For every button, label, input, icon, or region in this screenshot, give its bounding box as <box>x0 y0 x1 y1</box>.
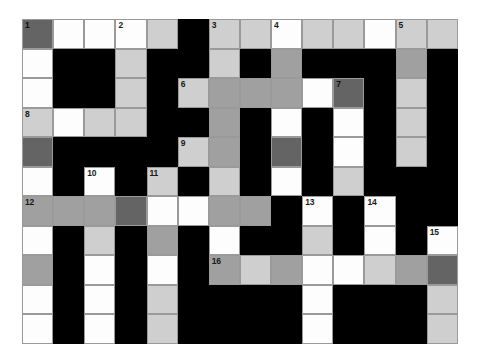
crossword-cell[interactable] <box>22 49 53 79</box>
crossword-cell[interactable] <box>396 255 427 285</box>
crossword-cell[interactable] <box>302 19 333 49</box>
crossword-cell[interactable]: 3 <box>209 19 240 49</box>
crossword-cell[interactable] <box>209 108 240 138</box>
crossword-cell[interactable] <box>240 19 271 49</box>
crossword-block-cell <box>396 314 427 344</box>
crossword-cell[interactable]: 16 <box>209 255 240 285</box>
crossword-cell[interactable] <box>240 196 271 226</box>
crossword-cell[interactable]: 15 <box>427 226 458 256</box>
crossword-cell[interactable] <box>396 137 427 167</box>
crossword-cell[interactable] <box>84 19 115 49</box>
crossword-cell[interactable] <box>178 196 209 226</box>
crossword-cell[interactable] <box>84 196 115 226</box>
crossword-cell[interactable] <box>271 78 302 108</box>
crossword-cell[interactable] <box>84 255 115 285</box>
crossword-cell[interactable] <box>333 255 364 285</box>
crossword-cell[interactable]: 11 <box>147 167 178 197</box>
crossword-cell[interactable] <box>22 255 53 285</box>
crossword-cell[interactable] <box>302 226 333 256</box>
crossword-cell[interactable] <box>364 19 395 49</box>
crossword-cell[interactable] <box>115 78 146 108</box>
cell-number: 15 <box>430 227 439 238</box>
crossword-block-cell <box>396 196 427 226</box>
crossword-cell[interactable] <box>333 19 364 49</box>
crossword-cell[interactable] <box>147 255 178 285</box>
crossword-block-cell <box>240 137 271 167</box>
crossword-cell[interactable] <box>271 167 302 197</box>
crossword-cell[interactable] <box>53 108 84 138</box>
crossword-block-cell <box>333 196 364 226</box>
crossword-cell[interactable] <box>147 285 178 315</box>
crossword-cell[interactable] <box>84 108 115 138</box>
cell-number: 2 <box>118 20 123 31</box>
crossword-cell[interactable]: 7 <box>333 78 364 108</box>
crossword-cell[interactable]: 4 <box>271 19 302 49</box>
crossword-cell[interactable]: 5 <box>396 19 427 49</box>
crossword-cell[interactable] <box>53 19 84 49</box>
crossword-cell[interactable] <box>333 108 364 138</box>
crossword-cell[interactable]: 13 <box>302 196 333 226</box>
crossword-cell[interactable]: 6 <box>178 78 209 108</box>
crossword-cell[interactable] <box>84 226 115 256</box>
crossword-block-cell <box>364 78 395 108</box>
crossword-cell[interactable] <box>147 196 178 226</box>
crossword-cell[interactable]: 10 <box>84 167 115 197</box>
crossword-cell[interactable]: 1 <box>22 19 53 49</box>
crossword-cell[interactable] <box>147 226 178 256</box>
crossword-cell[interactable] <box>271 255 302 285</box>
crossword-block-cell <box>240 226 271 256</box>
crossword-cell[interactable] <box>302 255 333 285</box>
crossword-cell[interactable] <box>22 314 53 344</box>
crossword-cell[interactable] <box>396 78 427 108</box>
crossword-cell[interactable]: 12 <box>22 196 53 226</box>
crossword-cell[interactable] <box>427 285 458 315</box>
crossword-block-cell <box>53 167 84 197</box>
crossword-grid[interactable]: 12345678910111213141516 <box>22 19 458 344</box>
crossword-cell[interactable] <box>115 49 146 79</box>
cell-number: 3 <box>212 20 217 31</box>
crossword-cell[interactable] <box>427 255 458 285</box>
crossword-cell[interactable] <box>271 108 302 138</box>
crossword-cell[interactable] <box>115 108 146 138</box>
crossword-cell[interactable] <box>22 167 53 197</box>
crossword-cell[interactable] <box>209 137 240 167</box>
crossword-cell[interactable] <box>147 19 178 49</box>
crossword-cell[interactable] <box>302 285 333 315</box>
crossword-block-cell <box>364 314 395 344</box>
crossword-cell[interactable] <box>427 314 458 344</box>
crossword-cell[interactable] <box>240 78 271 108</box>
crossword-cell[interactable] <box>396 49 427 79</box>
crossword-cell[interactable] <box>427 19 458 49</box>
crossword-cell[interactable] <box>271 137 302 167</box>
crossword-cell[interactable] <box>364 255 395 285</box>
crossword-block-cell <box>147 78 178 108</box>
crossword-cell[interactable] <box>209 196 240 226</box>
crossword-cell[interactable] <box>302 78 333 108</box>
crossword-cell[interactable] <box>84 285 115 315</box>
crossword-cell[interactable]: 2 <box>115 19 146 49</box>
crossword-cell[interactable] <box>364 226 395 256</box>
crossword-cell[interactable] <box>333 137 364 167</box>
crossword-cell[interactable] <box>271 49 302 79</box>
crossword-cell[interactable] <box>209 78 240 108</box>
crossword-cell[interactable] <box>22 78 53 108</box>
crossword-cell[interactable] <box>302 314 333 344</box>
crossword-cell[interactable] <box>22 226 53 256</box>
crossword-block-cell <box>84 137 115 167</box>
crossword-cell[interactable] <box>209 226 240 256</box>
crossword-cell[interactable] <box>84 314 115 344</box>
crossword-cell[interactable]: 9 <box>178 137 209 167</box>
crossword-cell[interactable] <box>333 167 364 197</box>
crossword-cell[interactable]: 8 <box>22 108 53 138</box>
crossword-cell[interactable] <box>53 196 84 226</box>
crossword-cell[interactable] <box>396 108 427 138</box>
crossword-cell[interactable] <box>147 314 178 344</box>
crossword-cell[interactable] <box>209 49 240 79</box>
crossword-cell[interactable]: 14 <box>364 196 395 226</box>
crossword-cell[interactable] <box>115 196 146 226</box>
crossword-block-cell <box>240 285 271 315</box>
crossword-cell[interactable] <box>240 255 271 285</box>
crossword-cell[interactable] <box>209 167 240 197</box>
crossword-cell[interactable] <box>22 137 53 167</box>
crossword-cell[interactable] <box>22 285 53 315</box>
